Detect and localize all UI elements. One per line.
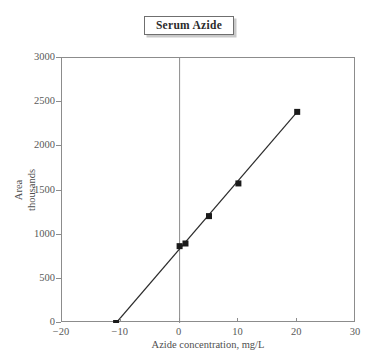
data-point-marker (177, 243, 183, 249)
data-point-marker (182, 241, 188, 247)
x-tick-label: 30 (350, 326, 361, 338)
x-tick-label: 0 (176, 326, 181, 338)
x-tick-label: 10 (232, 326, 243, 338)
data-point-marker (113, 320, 119, 323)
x-tick-mark (296, 318, 297, 322)
chart-figure: Serum Azide 050010001500200025003000 −20… (0, 0, 378, 360)
x-tick-mark (179, 318, 180, 322)
plot-canvas (62, 58, 356, 323)
y-tick-mark (56, 190, 61, 191)
data-point-marker (206, 213, 212, 219)
y-tick-mark (56, 101, 61, 102)
y-tick-mark (56, 234, 61, 235)
x-tick-mark (237, 318, 238, 322)
x-tick-label: 20 (291, 326, 302, 338)
plot-area (61, 57, 355, 322)
x-tick-label: −20 (53, 326, 69, 338)
x-tick-mark (120, 318, 121, 322)
x-axis-label: Azide concentration, mg/L (61, 339, 355, 350)
y-tick-mark (56, 145, 61, 146)
y-axis-label: Area thousands (10, 130, 40, 250)
y-tick-mark (56, 322, 61, 323)
data-point-marker (294, 109, 300, 115)
y-tick-mark (56, 278, 61, 279)
y-axis-label-text: Area thousands (12, 169, 38, 211)
x-tick-label: −10 (112, 326, 128, 338)
y-tick-mark (56, 57, 61, 58)
y-axis-label-line-1: Area (12, 169, 25, 211)
data-point-marker (235, 180, 241, 186)
y-axis-label-line-2: thousands (25, 169, 38, 211)
